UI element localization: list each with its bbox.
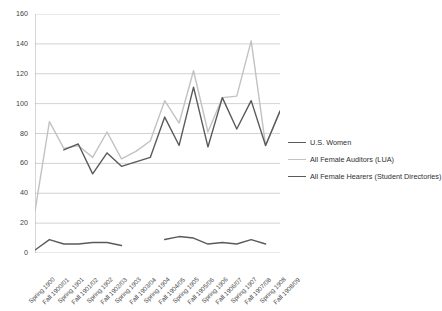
x-axis: Spring 1900Fall 1900/01Spring 1901Fall 1… bbox=[35, 253, 280, 311]
plot-area bbox=[35, 14, 280, 253]
y-axis-tick-label: 80 bbox=[20, 130, 28, 137]
plot-svg bbox=[35, 14, 280, 253]
y-axis-tick-label: 100 bbox=[16, 100, 28, 107]
series-line-0 bbox=[35, 240, 121, 250]
line-chart: 020406080100120140160 Spring 1900Fall 19… bbox=[0, 0, 442, 311]
y-axis-tick-label: 20 bbox=[20, 220, 28, 227]
legend-item[interactable]: U.S. Women bbox=[288, 134, 440, 151]
legend-item-label: All Female Hearers (Student Directories) bbox=[310, 173, 441, 181]
legend-line-swatch bbox=[288, 176, 306, 177]
series-line-1 bbox=[35, 41, 280, 211]
legend-item-label: U.S. Women bbox=[310, 139, 351, 147]
chart-legend: U.S. WomenAll Female Auditors (LUA)All F… bbox=[288, 134, 440, 185]
y-axis: 020406080100120140160 bbox=[0, 14, 32, 253]
series-line-2 bbox=[64, 87, 280, 174]
y-axis-tick-label: 140 bbox=[16, 40, 28, 47]
y-axis-tick-label: 60 bbox=[20, 160, 28, 167]
legend-line-swatch bbox=[288, 142, 306, 143]
legend-item[interactable]: All Female Hearers (Student Directories) bbox=[288, 168, 440, 185]
legend-item[interactable]: All Female Auditors (LUA) bbox=[288, 151, 440, 168]
y-axis-tick-label: 40 bbox=[20, 190, 28, 197]
legend-item-label: All Female Auditors (LUA) bbox=[310, 156, 394, 164]
series-line-0 bbox=[165, 237, 266, 244]
y-axis-tick-label: 120 bbox=[16, 70, 28, 77]
y-axis-tick-label: 0 bbox=[24, 249, 28, 256]
y-axis-tick-label: 160 bbox=[16, 10, 28, 17]
legend-line-swatch bbox=[288, 159, 306, 160]
